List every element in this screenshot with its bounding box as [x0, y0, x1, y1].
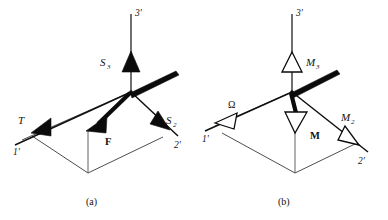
- vector-T-arrowhead: [31, 118, 51, 136]
- rigid-link-wedge-a: [130, 71, 179, 98]
- label-S3: S 3: [100, 56, 111, 71]
- label-M2-sub: 2: [351, 118, 355, 126]
- label-M3-sub: 3: [315, 63, 320, 71]
- joint-node-a: [129, 90, 133, 94]
- caption-a: (a): [86, 196, 97, 208]
- axis-1-line-b: [205, 92, 292, 131]
- panel-b: 3' 1' 2' M 3 Ω M 2 M (b): [202, 8, 368, 208]
- edge-bottom-to-2-b: [295, 143, 357, 173]
- label-F: F: [105, 136, 111, 147]
- axis-1-line-a: [15, 92, 131, 145]
- label-axis-2-b: 2': [358, 156, 366, 166]
- label-axis-1-a: 1': [13, 147, 21, 157]
- label-M3: M 3: [305, 56, 320, 71]
- label-axis-2-a: 2': [174, 140, 182, 150]
- vector-Omega-arrowhead: [215, 113, 237, 129]
- label-axis-3-a: 3': [134, 8, 143, 18]
- edge-1-to-bottom-b: [222, 133, 295, 173]
- vector-M2-arrowhead: [338, 126, 359, 145]
- figure-svg: 3' 1' 2' S 3 T S 2 F (a): [0, 0, 388, 220]
- panel-b-ground-lines: [215, 92, 357, 173]
- label-M: M: [310, 130, 320, 141]
- vector-M-arrowhead: [285, 112, 307, 133]
- vector-M3-arrowhead: [282, 52, 302, 72]
- joint-node-b: [290, 90, 294, 94]
- caption-b: (b): [278, 196, 290, 208]
- label-S3-sub: 3: [106, 63, 111, 71]
- label-axis-1-b: 1': [202, 134, 210, 144]
- rigid-link-wedge-b: [291, 70, 340, 98]
- label-M3-main: M: [305, 56, 316, 68]
- edge-1-to-bottom: [32, 136, 88, 173]
- figure-container: 3' 1' 2' S 3 T S 2 F (a): [0, 0, 388, 220]
- edge-bottom-to-2: [88, 137, 163, 173]
- label-M2-main: M: [340, 111, 351, 123]
- vector-S3-arrowhead: [122, 51, 140, 72]
- label-M2: M 2: [340, 111, 355, 126]
- label-axis-3-b: 3': [295, 8, 304, 18]
- vector-F-arrowhead: [86, 116, 107, 133]
- label-T: T: [18, 114, 25, 126]
- panel-a: 3' 1' 2' S 3 T S 2 F (a): [13, 8, 182, 208]
- label-Omega: Ω: [228, 99, 235, 110]
- label-S2-sub: 2: [173, 121, 177, 129]
- label-S2-main: S: [166, 114, 172, 126]
- label-S3-main: S: [100, 56, 106, 68]
